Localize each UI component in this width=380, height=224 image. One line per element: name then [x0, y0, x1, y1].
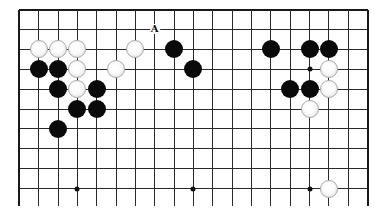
black-stone [262, 40, 280, 58]
grid-line-vertical [348, 10, 349, 206]
black-stone [184, 60, 202, 78]
white-stone [126, 40, 144, 58]
point-label: A [150, 24, 160, 34]
star-point [307, 186, 312, 191]
grid-line-vertical [154, 10, 155, 206]
grid-line-vertical [116, 10, 117, 206]
black-stone [301, 80, 319, 98]
grid-line-vertical [232, 10, 233, 206]
black-stone [49, 80, 67, 98]
white-stone [320, 80, 338, 98]
black-stone [49, 60, 67, 78]
black-stone [30, 60, 48, 78]
grid-line-vertical [193, 10, 194, 206]
white-stone [68, 60, 86, 78]
star-point [75, 186, 80, 191]
black-stone [88, 80, 106, 98]
grid-line-vertical [290, 10, 291, 206]
white-stone [68, 80, 86, 98]
black-stone [68, 100, 86, 118]
white-stone [30, 40, 48, 58]
grid-line-vertical [135, 10, 136, 206]
black-stone [165, 40, 183, 58]
white-stone [68, 40, 86, 58]
grid-line-vertical [174, 10, 175, 206]
star-point [307, 67, 312, 72]
board-left-edge [18, 10, 20, 206]
grid-line-vertical [58, 10, 59, 206]
go-board: A [0, 0, 380, 224]
black-stone [281, 80, 299, 98]
black-stone [49, 120, 67, 138]
grid-line-vertical [328, 10, 329, 206]
white-stone [320, 60, 338, 78]
grid-line-vertical [212, 10, 213, 206]
white-stone [320, 180, 338, 198]
black-stone [301, 40, 319, 58]
star-point [191, 186, 196, 191]
white-stone [301, 100, 319, 118]
black-stone [88, 100, 106, 118]
grid-line-vertical [251, 10, 252, 206]
white-stone [49, 40, 67, 58]
white-stone [107, 60, 125, 78]
grid-line-vertical [38, 10, 39, 206]
board-right-edge [367, 10, 369, 206]
black-stone [320, 40, 338, 58]
grid-line-vertical [270, 10, 271, 206]
